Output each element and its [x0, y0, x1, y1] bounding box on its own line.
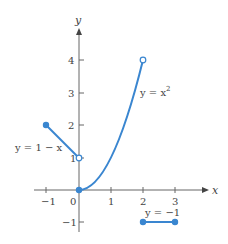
closed-endpoint-dot — [76, 187, 81, 192]
tick-label-y-neg1: −1 — [62, 217, 77, 228]
annotation-x-squared-exponent: 2 — [166, 85, 170, 93]
x-axis-arrow-icon — [202, 187, 209, 193]
y-axis-label: y — [74, 14, 82, 27]
closed-endpoint-dot — [140, 219, 145, 224]
y-axis-arrow-icon — [76, 28, 82, 35]
annotation-x-squared: y = x2 — [139, 85, 171, 98]
tick-label-y-2: 2 — [68, 120, 74, 131]
annotation-x-squared-base: y = x — [139, 87, 166, 98]
tick-label-x-0: 0 — [70, 196, 76, 207]
parabola-x-squared — [79, 60, 143, 190]
open-endpoint-dot — [76, 155, 82, 161]
tick-label-y-3: 3 — [68, 88, 74, 99]
x-axis-label: x — [212, 184, 219, 197]
piecewise-function-graph: x y −1 0 1 2 3 4 3 2 1 −1 y = 1 − x y = … — [0, 0, 228, 244]
tick-label-x-3: 3 — [172, 196, 178, 207]
tick-label-x-neg1: −1 — [41, 196, 56, 207]
tick-label-x-2: 2 — [140, 196, 146, 207]
annotation-1-minus-x: y = 1 − x — [14, 142, 62, 153]
tick-label-y-4: 4 — [68, 55, 74, 66]
open-endpoint-dot — [140, 57, 146, 63]
closed-endpoint-dot — [172, 219, 177, 224]
tick-label-x-1: 1 — [108, 196, 114, 207]
closed-endpoint-dot — [43, 122, 48, 127]
annotation-neg1: y = −1 — [144, 207, 180, 218]
